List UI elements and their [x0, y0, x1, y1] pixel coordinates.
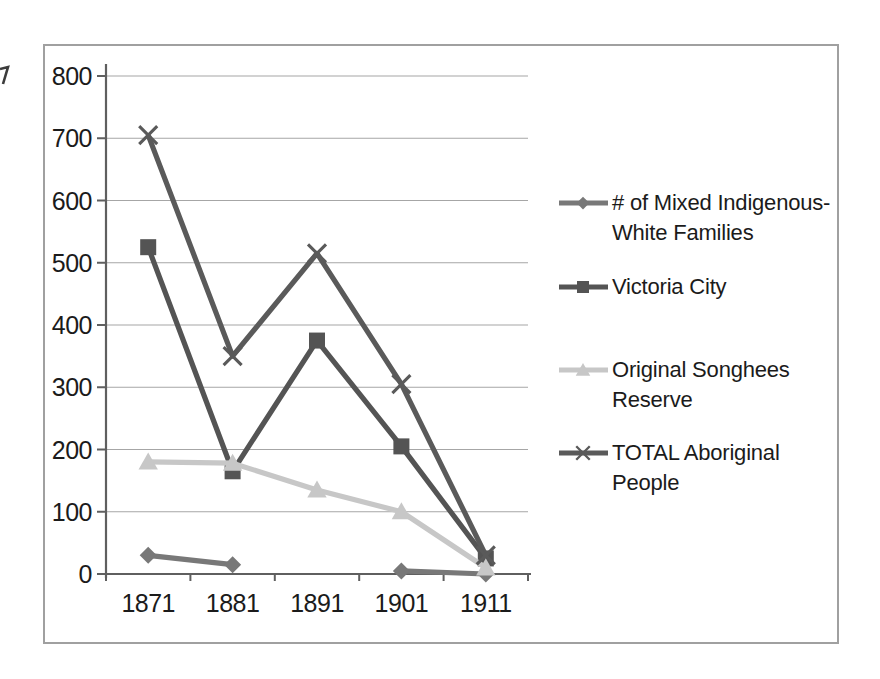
- legend-marker-svg: [558, 355, 612, 385]
- y-axis-tick-label: 0: [26, 560, 92, 588]
- legend-label-total-aboriginal: TOTAL Aboriginal People: [612, 438, 844, 498]
- x-marker-icon: [558, 438, 612, 468]
- square-marker-icon: [558, 272, 612, 302]
- legend-marker-svg: [558, 188, 612, 218]
- legend-marker-svg: [558, 272, 612, 302]
- y-axis-tick-label: 200: [26, 436, 92, 464]
- legend-marker-square: [577, 281, 589, 293]
- y-axis-tick-label: 600: [26, 187, 92, 215]
- legend-marker-svg: [558, 438, 612, 468]
- legend-marker-diamond: [577, 197, 590, 210]
- legend-item-victoria-city: Victoria City: [558, 272, 844, 302]
- legend-item-songhees-reserve: Original Songhees Reserve: [558, 355, 844, 415]
- y-axis-tick-label: 700: [26, 124, 92, 152]
- legend-label-victoria-city: Victoria City: [612, 272, 844, 302]
- legend-item-total-aboriginal: TOTAL Aboriginal People: [558, 438, 844, 498]
- y-axis-tick-label: 400: [26, 311, 92, 339]
- legend-label-mixed-families: # of Mixed Indigenous-White Families: [612, 188, 844, 248]
- x-axis-tick-label: 1911: [434, 589, 538, 617]
- y-axis-tick-label: 500: [26, 249, 92, 277]
- legend-item-mixed-families: # of Mixed Indigenous-White Families: [558, 188, 844, 248]
- y-axis-tick-label: 800: [26, 62, 92, 90]
- diamond-marker-icon: [558, 188, 612, 218]
- legend-label-songhees-reserve: Original Songhees Reserve: [612, 355, 844, 415]
- chart-frame: [43, 44, 839, 644]
- y-axis-tick-label: 300: [26, 373, 92, 401]
- scan-artifact-stroke: [0, 67, 8, 84]
- scanned-line-chart-page: 0100200300400500600700800 18711881189119…: [0, 0, 880, 679]
- triangle-marker-icon: [558, 355, 612, 385]
- scan-artifact-mark: [0, 62, 18, 96]
- y-axis-tick-label: 100: [26, 498, 92, 526]
